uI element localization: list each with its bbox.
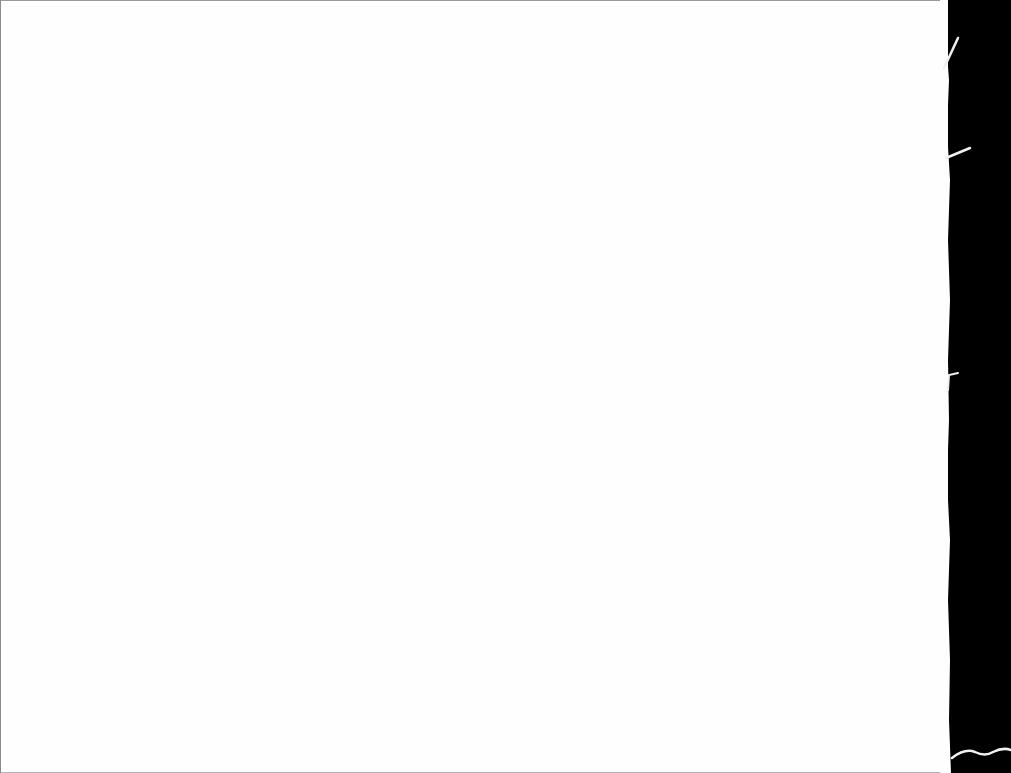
torn-paper-edge bbox=[940, 0, 960, 773]
photo-scene bbox=[0, 0, 1011, 773]
blank-paper-sheet bbox=[0, 0, 948, 773]
